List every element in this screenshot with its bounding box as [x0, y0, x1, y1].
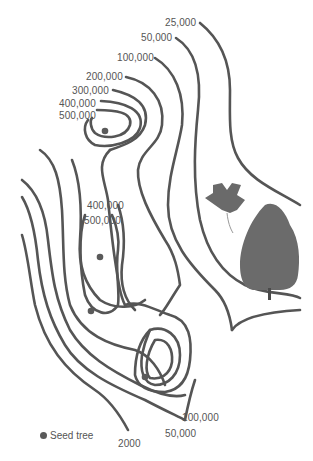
contour-label-100000: 100,000	[117, 52, 154, 63]
contour-label-300000: 300,000	[72, 85, 109, 96]
contour-label-500000: 500,000	[59, 110, 96, 121]
contour-left-1	[40, 150, 165, 385]
contour-label-500000-mid: 500,000	[84, 215, 121, 226]
contour-label-400000-mid: 400,000	[87, 200, 124, 211]
seed-tree-dot	[102, 128, 109, 135]
seed-tree-legend-icon	[40, 432, 47, 439]
legend: Seed tree	[40, 430, 93, 441]
legend-label: Seed tree	[50, 430, 93, 441]
contour-left-2	[22, 180, 185, 396]
contour-25000	[200, 23, 300, 205]
contour-label-50000-bottom: 50,000	[165, 428, 196, 439]
contour-label-25000: 25,000	[165, 17, 196, 28]
contour-right-arm	[232, 310, 300, 330]
contour-label-400000: 400,000	[59, 98, 96, 109]
contour-200000	[126, 77, 180, 315]
contour-label-200000: 200,000	[86, 71, 123, 82]
contour-label-50000: 50,000	[141, 32, 172, 43]
contour-label-2000: 2000	[118, 438, 141, 449]
contour-label-100000-bottom: 100,000	[182, 412, 219, 423]
seed-tree-dot	[97, 254, 104, 261]
seed-tree-dot	[88, 308, 95, 315]
contour-500000-top	[91, 110, 131, 137]
tree-icon	[240, 204, 299, 300]
contour-map	[0, 0, 313, 461]
seed-tree-dot	[142, 374, 149, 381]
leaf-icon	[205, 183, 245, 233]
